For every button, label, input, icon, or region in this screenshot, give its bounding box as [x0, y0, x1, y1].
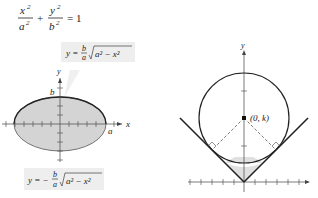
svg-text:2: 2 [26, 19, 30, 27]
svg-text:y: y [56, 67, 61, 76]
svg-text:b: b [50, 87, 55, 97]
svg-text:2: 2 [56, 19, 60, 27]
svg-text:= 1: = 1 [67, 12, 81, 24]
svg-text:b: b [49, 20, 55, 32]
svg-text:x: x [125, 119, 130, 129]
svg-text:a: a [53, 180, 57, 189]
svg-text:a: a [19, 20, 25, 32]
lower-half-label: y = − b a a² − x² [24, 168, 104, 190]
svg-text:x: x [19, 4, 25, 16]
upper-half-label: y = b a a² − x² [61, 42, 135, 98]
svg-text:y = −: y = − [27, 175, 49, 185]
figure: x 2 a 2 + y 2 b 2 = 1 y = b a a² − x² x … [0, 0, 318, 198]
svg-text:y =: y = [65, 48, 78, 58]
svg-text:b: b [53, 170, 57, 179]
svg-text:b: b [82, 44, 86, 53]
svg-text:2: 2 [27, 3, 31, 11]
svg-text:a² − x²: a² − x² [66, 176, 91, 186]
svg-text:a: a [82, 53, 86, 62]
svg-text:a² − x²: a² − x² [95, 49, 120, 59]
svg-text:2: 2 [57, 3, 61, 11]
ellipse-graph: x y b a [2, 67, 130, 162]
svg-text:a: a [108, 126, 113, 136]
diagram-canvas: x 2 a 2 + y 2 b 2 = 1 y = b a a² − x² x … [0, 0, 318, 198]
svg-text:y: y [49, 4, 55, 16]
svg-text:+: + [37, 12, 43, 24]
svg-text:y: y [240, 41, 245, 50]
circle-in-vertex-graph: y (0, k) [180, 41, 310, 192]
svg-text:(0, k): (0, k) [250, 113, 269, 123]
ellipse-equation: x 2 a 2 + y 2 b 2 = 1 [18, 3, 81, 32]
